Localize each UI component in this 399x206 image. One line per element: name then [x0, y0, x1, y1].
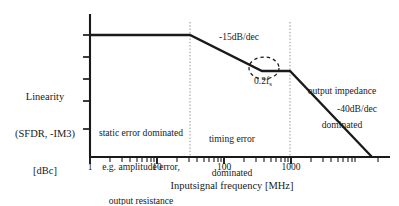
region-static-line-1: static error dominated	[92, 127, 190, 138]
region-label-output-impedance: output impedance dominated	[288, 62, 396, 153]
figure-linearity-vs-frequency: Linearity (SFDR, -IM3) [dBc] 1 10 100 10…	[0, 0, 399, 205]
region-output-line-2: dominated	[288, 119, 396, 130]
x-tick-label-1000: 1000	[271, 162, 311, 173]
region-static-line-2: e.g. amplitude error,	[92, 161, 190, 172]
region-label-static-error: static error dominated e.g. amplitude er…	[92, 104, 190, 205]
y-axis-title-line-1: Linearity	[6, 91, 84, 103]
breakpoint-value: 0.2f	[254, 75, 269, 86]
region-timing-line-1: timing error	[196, 133, 268, 144]
region-timing-line-2: dominated	[196, 167, 268, 178]
region-output-line-1: output impedance	[288, 85, 396, 96]
annotation-breakpoint-0p2fs: 0.2fs	[243, 75, 283, 86]
y-axis-title-line-2: (SFDR, -IM3)	[6, 128, 84, 140]
breakpoint-subscript: s	[269, 80, 272, 88]
region-static-line-3: output resistance	[92, 195, 190, 206]
y-axis-title: Linearity (SFDR, -IM3) [dBc]	[6, 66, 84, 202]
annotation-slope-15db-per-dec: -15dB/dec	[219, 31, 259, 42]
region-label-timing-error: timing error dominated	[196, 110, 268, 201]
